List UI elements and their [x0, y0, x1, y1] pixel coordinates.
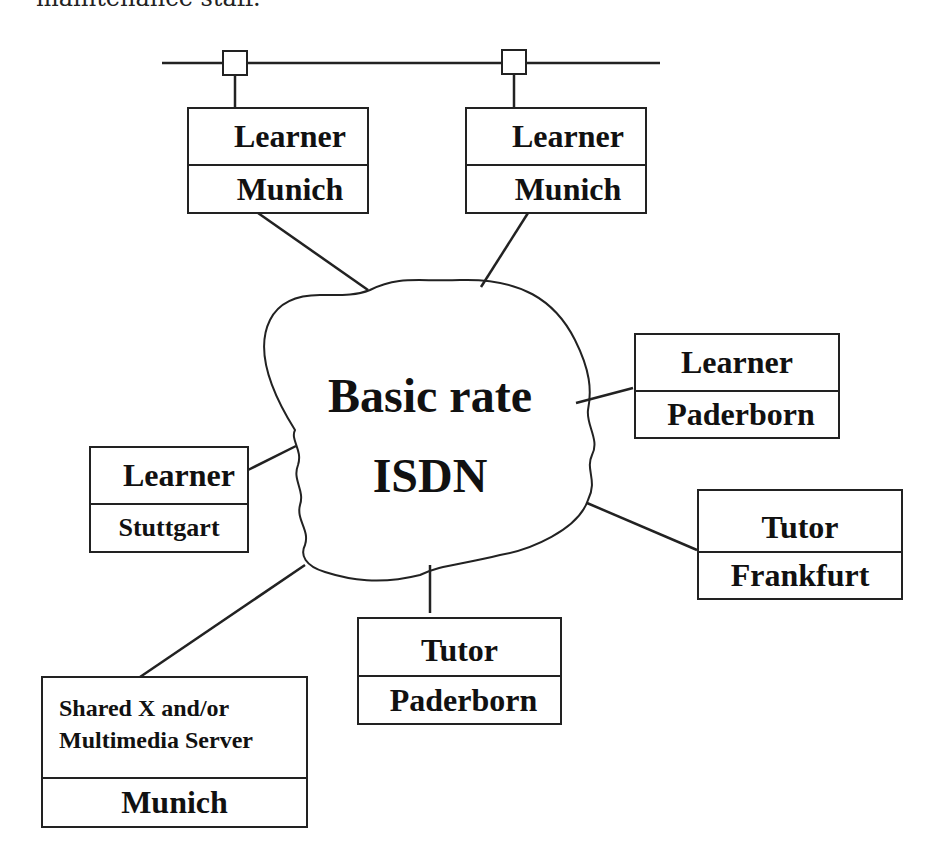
node-learner-munich-2: Learner Munich [465, 107, 647, 214]
node-learner-stuttgart: Learner Stuttgart [89, 446, 249, 553]
node-role: Learner [189, 109, 367, 166]
node-role: Shared X and/or Multimedia Server [43, 678, 306, 779]
node-role: Tutor [359, 619, 560, 677]
node-role: Tutor [699, 491, 901, 553]
node-role: Learner [467, 109, 645, 166]
node-tutor-frankfurt: Tutor Frankfurt [697, 489, 903, 600]
node-location: Stuttgart [91, 505, 247, 551]
lan-tap-2 [502, 50, 526, 74]
node-location: Munich [467, 166, 645, 212]
server-role-line1: Shared X and/or [59, 692, 229, 724]
node-learner-paderborn: Learner Paderborn [634, 333, 840, 439]
node-location: Paderborn [636, 392, 838, 437]
node-role: Learner [91, 448, 247, 505]
node-server-munich: Shared X and/or Multimedia Server Munich [41, 676, 308, 828]
isdn-label-line2: ISDN [300, 448, 560, 504]
isdn-label-line1: Basic rate [300, 368, 560, 424]
node-location: Frankfurt [699, 553, 901, 598]
node-location: Paderborn [359, 677, 560, 723]
node-role: Learner [636, 335, 838, 392]
node-tutor-paderborn: Tutor Paderborn [357, 617, 562, 725]
node-learner-munich-1: Learner Munich [187, 107, 369, 214]
server-role-line2: Multimedia Server [59, 724, 253, 756]
node-location: Munich [189, 166, 367, 212]
isdn-network-label: Basic rate ISDN [300, 368, 560, 504]
node-location: Munich [43, 779, 306, 826]
lan-tap-1 [223, 51, 247, 75]
